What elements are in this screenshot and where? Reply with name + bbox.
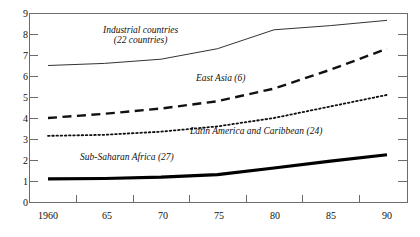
y-tick-label: 0	[12, 197, 28, 208]
x-tick-label: 1960	[28, 210, 68, 221]
chart-plot-area	[0, 0, 420, 237]
y-tick-label: 1	[12, 176, 28, 187]
x-tick-label: 65	[87, 210, 127, 221]
series-line-east-asia-6	[48, 49, 387, 118]
series-label-sub-saharan-africa: Sub-Saharan Africa (27)	[80, 152, 174, 162]
x-tick-label: 90	[367, 210, 407, 221]
series-label-line2: (22 countries)	[103, 35, 178, 45]
series-label-line1: Industrial countries	[103, 25, 178, 35]
series-label-industrial-countries: Industrial countries (22 countries)	[103, 25, 178, 45]
chart-container: 9 8 7 6 5 4 3 2 1 0 1960 65 70 75 80 85 …	[0, 0, 420, 237]
y-tick-label: 3	[12, 134, 28, 145]
x-tick-label: 80	[255, 210, 295, 221]
y-tick-label: 6	[12, 71, 28, 82]
y-tick-label: 8	[12, 29, 28, 40]
y-tick-label: 9	[12, 8, 28, 19]
series-label-latin-america: Latin America and Caribbean (24)	[190, 126, 322, 136]
x-tick-label: 85	[311, 210, 351, 221]
y-tick-label: 5	[12, 92, 28, 103]
x-tick-label: 70	[143, 210, 183, 221]
y-tick-label: 7	[12, 50, 28, 61]
x-tick-label: 75	[199, 210, 239, 221]
series-label-east-asia: East Asia (6)	[196, 73, 245, 83]
y-tick-label: 2	[12, 155, 28, 166]
y-tick-label: 4	[12, 113, 28, 124]
series-line-industrial-countries-22-countries	[48, 20, 387, 65]
